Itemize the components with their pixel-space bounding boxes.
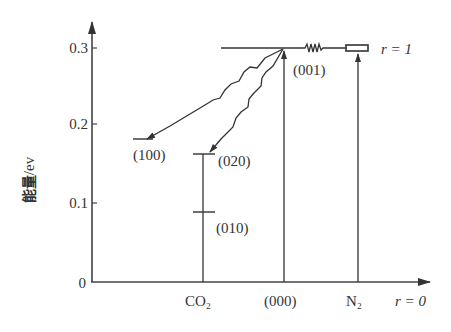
x-label-000: (000) bbox=[264, 293, 297, 310]
n2-level-box bbox=[346, 45, 368, 51]
y-axis-unit: /ev bbox=[21, 157, 37, 175]
y-axis-label-text: 能量 bbox=[21, 175, 37, 203]
relaxation-arrow-020 bbox=[210, 49, 283, 152]
x-axis-end-label: r = 0 bbox=[395, 293, 426, 309]
y-axis-label: 能量/ev bbox=[8, 145, 48, 215]
x-label-co2: CO₂ bbox=[185, 293, 211, 309]
y-tick-label-02: 0.2 bbox=[69, 116, 88, 132]
energy-level-diagram: 0.3 0.2 0.1 0 r = 1 (001) (020) (010) (1… bbox=[0, 0, 451, 332]
y-tick-label-0: 0 bbox=[79, 275, 87, 291]
spring-coupling-icon bbox=[302, 44, 346, 52]
level-label-010: (010) bbox=[216, 220, 249, 237]
relaxation-arrow-100 bbox=[147, 49, 283, 139]
y-tick-label-03: 0.3 bbox=[69, 40, 88, 56]
upper-level-label: r = 1 bbox=[381, 41, 412, 57]
level-label-100: (100) bbox=[133, 147, 166, 164]
y-tick-label-01: 0.1 bbox=[69, 195, 88, 211]
level-label-001: (001) bbox=[293, 62, 326, 79]
level-label-020: (020) bbox=[218, 153, 251, 170]
x-label-n2: N₂ bbox=[346, 293, 362, 309]
